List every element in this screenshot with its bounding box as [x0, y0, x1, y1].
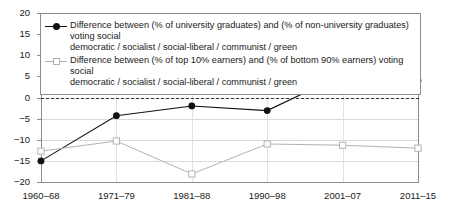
y-axis-tick-label: 10: [4, 50, 30, 60]
y-axis-tick-label: −5: [4, 114, 30, 124]
x-axis-tick-label: 2001–07: [324, 190, 361, 201]
y-axis-tick-label: 15: [4, 29, 30, 39]
filled-circle-marker: [45, 21, 67, 33]
legend-item-top-10-earners: Difference between (% of top 10% earners…: [45, 55, 415, 89]
line-chart: 20151050−5−10−15−201960–681971–791981–88…: [0, 0, 466, 222]
y-axis-tick-label: −10: [4, 135, 30, 145]
y-axis-tick-label: 20: [4, 8, 30, 18]
y-gridline: [41, 140, 419, 141]
y-axis-tick-label: 0: [4, 93, 30, 103]
x-axis-tick-label: 1981–88: [173, 190, 210, 201]
y-gridline: [41, 119, 419, 120]
x-axis-tick-label: 2011–15: [400, 190, 436, 201]
chart-legend: Difference between (% of university grad…: [40, 13, 421, 95]
x-axis-tick-label: 1990–98: [249, 190, 286, 201]
series-line-2: [41, 141, 418, 174]
legend-label-university-graduates: Difference between (% of university grad…: [70, 20, 415, 54]
legend-label-top-10-earners: Difference between (% of top 10% earners…: [70, 55, 415, 89]
x-axis-tick-label: 1960–68: [23, 190, 60, 201]
legend-item-university-graduates: Difference between (% of university grad…: [45, 20, 415, 54]
open-square-marker: [45, 56, 67, 68]
zero-reference-line: [41, 98, 419, 99]
x-axis-tick-label: 1971–79: [98, 190, 135, 201]
y-axis-tick-label: −15: [4, 156, 30, 166]
x-axis-line: [41, 182, 419, 183]
y-axis-tick-label: 5: [4, 71, 30, 81]
y-axis-tick-label: −20: [4, 177, 30, 187]
y-gridline: [41, 161, 419, 162]
